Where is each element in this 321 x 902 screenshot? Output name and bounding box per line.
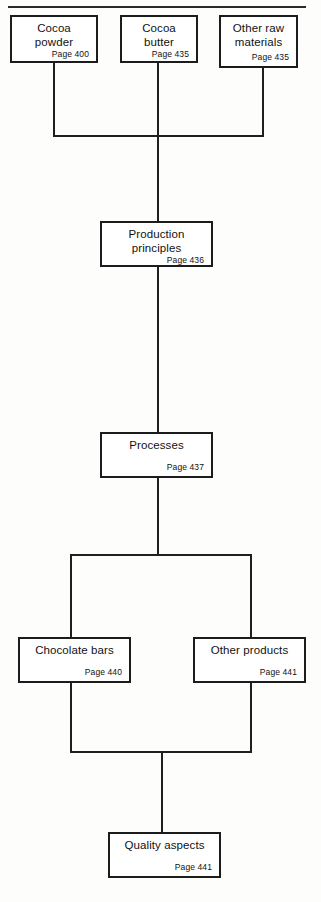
- node-other-raw-materials[interactable]: Other raw materials Page 435: [219, 15, 298, 68]
- top-divider-rule: [8, 6, 306, 8]
- node-chocolate-bars-page: Page 440: [27, 667, 122, 677]
- node-quality-aspects-label: Quality aspects: [117, 839, 212, 853]
- connector-other-raw-down: [262, 68, 264, 137]
- node-quality-aspects[interactable]: Quality aspects Page 441: [108, 832, 221, 878]
- connector-production-to-processes: [157, 266, 159, 433]
- node-cocoa-powder-page: Page 400: [19, 49, 89, 59]
- node-other-raw-materials-page: Page 435: [228, 52, 289, 62]
- node-processes[interactable]: Processes Page 437: [100, 432, 213, 478]
- node-production-principles-label: Production principles: [109, 228, 204, 255]
- node-cocoa-butter[interactable]: Cocoa butter Page 435: [120, 15, 198, 63]
- node-chocolate-bars-label: Chocolate bars: [27, 644, 122, 658]
- diagram-canvas: Cocoa powder Page 400 Cocoa butter Page …: [0, 0, 321, 902]
- node-other-raw-materials-label: Other raw materials: [228, 22, 289, 49]
- node-cocoa-powder[interactable]: Cocoa powder Page 400: [10, 15, 98, 63]
- connector-cocoa-butter-down: [157, 63, 159, 137]
- connector-bus-to-other-products: [250, 554, 252, 638]
- connector-merge-to-quality: [161, 751, 163, 833]
- node-processes-label: Processes: [109, 439, 204, 453]
- connector-products-split-bus: [70, 554, 252, 556]
- node-cocoa-powder-label: Cocoa powder: [19, 22, 89, 49]
- node-cocoa-butter-label: Cocoa butter: [129, 22, 189, 49]
- node-quality-aspects-page: Page 441: [117, 862, 212, 872]
- connector-bus-to-production: [157, 135, 159, 222]
- connector-other-products-down: [250, 682, 252, 753]
- node-processes-page: Page 437: [109, 462, 204, 472]
- connector-chocolate-bars-down: [70, 682, 72, 753]
- node-other-products[interactable]: Other products Page 441: [193, 637, 306, 683]
- node-other-products-label: Other products: [202, 644, 297, 658]
- node-chocolate-bars[interactable]: Chocolate bars Page 440: [18, 637, 131, 683]
- node-cocoa-butter-page: Page 435: [129, 49, 189, 59]
- node-production-principles[interactable]: Production principles Page 436: [100, 221, 213, 267]
- connector-bus-to-chocolate-bars: [70, 554, 72, 638]
- connector-processes-down: [157, 477, 159, 556]
- connector-cocoa-powder-down: [53, 63, 55, 137]
- node-other-products-page: Page 441: [202, 667, 297, 677]
- node-production-principles-page: Page 436: [109, 255, 204, 265]
